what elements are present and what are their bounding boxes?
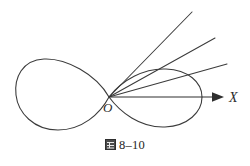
figure-cjk-glyph-icon	[105, 139, 116, 150]
figure-caption-number: 8–10	[119, 138, 145, 153]
lemniscate-left-loop	[16, 59, 109, 130]
ray-1-steep	[109, 12, 192, 97]
lemniscate-right-loop	[109, 69, 202, 127]
origin-label: O	[103, 100, 113, 115]
x-axis-arrowhead-icon	[212, 92, 224, 102]
ray-2-middle	[109, 38, 215, 97]
figure-container: X O 8–10	[0, 0, 250, 166]
figure-caption: 8–10	[0, 138, 250, 153]
x-axis-label: X	[228, 90, 238, 105]
